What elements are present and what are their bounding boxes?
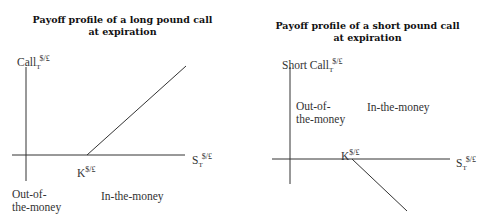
short-call-out-of-money-label: Out-of-the-money bbox=[296, 100, 345, 126]
short-call-y-axis-label: Short CallT$/£ bbox=[282, 55, 342, 77]
long-call-strike-label: K$/£ bbox=[77, 163, 96, 180]
long-call-in-money-label: In-the-money bbox=[101, 190, 164, 203]
long-call-x-axis-label: ST$/£ bbox=[192, 150, 212, 172]
long-call-y-axis-label: CallT$/£ bbox=[17, 52, 50, 74]
long-call-out-of-money-label: Out-of-the-money bbox=[12, 188, 61, 214]
short-call-panel: Payoff profile of a short pound call at … bbox=[245, 0, 490, 224]
short-call-x-axis-label: ST$/£ bbox=[456, 153, 476, 175]
short-call-in-money-label: In-the-money bbox=[367, 101, 430, 114]
payoff-line bbox=[352, 159, 407, 211]
payoff-line bbox=[87, 66, 186, 155]
long-call-panel: Payoff profile of a long pound call at e… bbox=[0, 0, 245, 224]
short-call-strike-label: K$/£ bbox=[341, 146, 360, 163]
